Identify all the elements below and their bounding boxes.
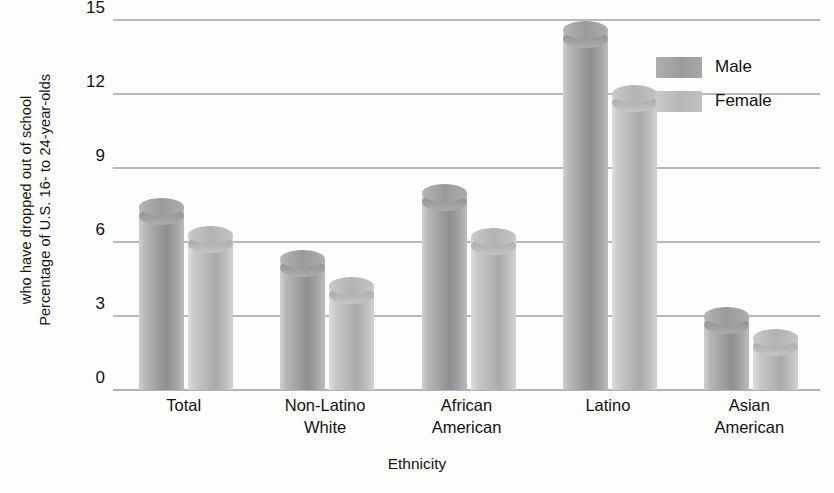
y-tick-label: 0: [96, 369, 105, 386]
x-tick-label-asian-american: AsianAmerican: [679, 395, 820, 439]
legend-swatch-male: [656, 57, 702, 78]
bar-body: [422, 193, 467, 390]
bar-cap: [563, 21, 608, 39]
chart-figure: Percentage of U.S. 16- to 24-year-olds w…: [0, 0, 834, 493]
x-axis-title: Ethnicity: [0, 455, 834, 473]
bar-body: [280, 259, 325, 390]
bar-male-non-latino-white: [280, 250, 325, 390]
bar-cap: [188, 226, 233, 244]
x-tick-label-non-latino-white: Non-LatinoWhite: [254, 395, 395, 439]
bar-body: [612, 94, 657, 390]
x-tick-label-line: Latino: [537, 395, 678, 417]
y-tick-label: 3: [96, 295, 105, 312]
bar-female-total: [188, 226, 233, 390]
bar-cap: [612, 85, 657, 103]
y-axis-title-line1: Percentage of U.S. 16- to 24-year-olds: [36, 74, 55, 326]
x-tick-label-line: Asian: [679, 395, 820, 417]
x-tick-label-line: American: [679, 417, 820, 439]
x-tick-label-line: White: [254, 417, 395, 439]
y-axis-title: Percentage of U.S. 16- to 24-year-olds w…: [4, 0, 68, 400]
y-tick-label: 9: [96, 147, 105, 164]
bar-cap: [471, 228, 516, 246]
legend-swatch-female: [656, 91, 702, 112]
bar-female-non-latino-white: [329, 277, 374, 390]
x-tick-label-line: African: [396, 395, 537, 417]
bar-body: [563, 30, 608, 390]
bar-female-asian-american: [753, 329, 798, 390]
bar-male-total: [139, 198, 184, 390]
y-tick-label: 6: [96, 221, 105, 238]
x-tick-label-total: Total: [113, 395, 254, 417]
legend-label-male: Male: [715, 57, 752, 77]
x-tick-label-line: American: [396, 417, 537, 439]
x-tick-label-line: Non-Latino: [254, 395, 395, 417]
bar-cap: [704, 307, 749, 325]
legend-item-male: Male: [656, 50, 772, 84]
chart-legend: Male Female: [656, 50, 772, 118]
bar-cap: [422, 184, 467, 202]
bar-female-latino: [612, 85, 657, 390]
y-tick-label: 12: [86, 73, 105, 90]
bar-male-latino: [563, 21, 608, 390]
bar-body: [139, 207, 184, 390]
y-axis-title-line2: who have dropped out of school: [17, 96, 36, 305]
bar-body: [471, 237, 516, 390]
y-tick-label: 15: [86, 0, 105, 16]
x-tick-label-african-american: AfricanAmerican: [396, 395, 537, 439]
x-tick-label-latino: Latino: [537, 395, 678, 417]
x-tick-label-line: Total: [113, 395, 254, 417]
x-axis-tick-labels: TotalNon-LatinoWhiteAfricanAmericanLatin…: [113, 395, 820, 455]
bar-body: [188, 235, 233, 390]
bar-female-african-american: [471, 228, 516, 390]
bar-male-asian-american: [704, 307, 749, 390]
bar-male-african-american: [422, 184, 467, 390]
legend-label-female: Female: [715, 91, 772, 111]
legend-item-female: Female: [656, 84, 772, 118]
